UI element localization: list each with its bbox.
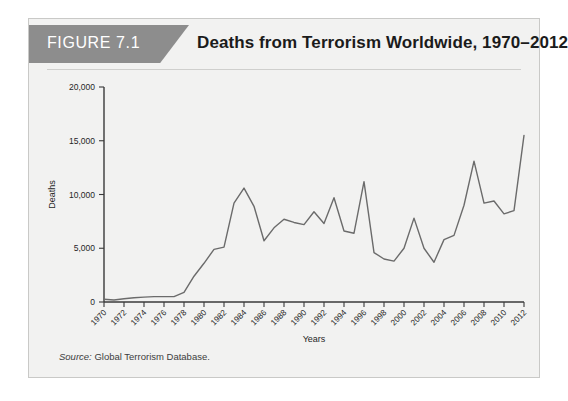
- x-tick-label: 1986: [249, 308, 269, 328]
- x-tick-label: 2012: [509, 308, 529, 328]
- figure-card: FIGURE 7.1 Deaths from Terrorism Worldwi…: [28, 18, 540, 378]
- y-tick-label: 15,000: [69, 136, 95, 146]
- source-prefix: Source:: [59, 351, 92, 362]
- x-tick-label: 1990: [289, 308, 309, 328]
- x-tick-label: 1992: [309, 308, 329, 328]
- source-text: Global Terrorism Database.: [92, 351, 210, 362]
- x-tick-label: 1994: [329, 308, 349, 328]
- data-series-line: [104, 135, 524, 300]
- x-tick-label: 2004: [429, 308, 449, 328]
- x-tick-label: 1974: [129, 308, 149, 328]
- x-tick-label: 2008: [469, 308, 489, 328]
- x-tick-label: 2010: [489, 308, 509, 328]
- x-tick-label: 1976: [149, 308, 169, 328]
- y-tick-label: 5,000: [74, 243, 96, 253]
- x-tick-label: 1988: [269, 308, 289, 328]
- x-tick-label: 2002: [409, 308, 429, 328]
- x-tick-label: 1980: [189, 308, 209, 328]
- x-tick-label: 1982: [209, 308, 229, 328]
- x-axis-ticks: 1970197219741976197819801982198419861988…: [89, 302, 529, 327]
- figure-badge-label: FIGURE 7.1: [47, 34, 140, 52]
- x-tick-label: 1984: [229, 308, 249, 328]
- x-tick-label: 1998: [369, 308, 389, 328]
- x-tick-label: 2000: [389, 308, 409, 328]
- x-tick-label: 1970: [89, 308, 109, 328]
- y-tick-label: 0: [90, 297, 95, 307]
- page-title: Deaths from Terrorism Worldwide, 1970–20…: [197, 33, 568, 53]
- x-axis-title: Years: [303, 334, 326, 344]
- x-tick-label: 1996: [349, 308, 369, 328]
- x-tick-label: 1978: [169, 308, 189, 328]
- chart-plot-area: 05,00010,00015,00020,000 197019721974197…: [29, 75, 539, 345]
- figure-header: FIGURE 7.1 Deaths from Terrorism Worldwi…: [29, 25, 539, 63]
- line-chart: 05,00010,00015,00020,000 197019721974197…: [29, 75, 539, 345]
- y-axis-ticks: 05,00010,00015,00020,000: [69, 82, 104, 307]
- header-divider: [47, 69, 521, 70]
- y-tick-label: 20,000: [69, 82, 95, 92]
- x-tick-label: 2006: [449, 308, 469, 328]
- source-note: Source: Global Terrorism Database.: [59, 351, 210, 362]
- x-tick-label: 1972: [109, 308, 129, 328]
- y-tick-label: 10,000: [69, 190, 95, 200]
- y-axis-title: Deaths: [47, 180, 57, 209]
